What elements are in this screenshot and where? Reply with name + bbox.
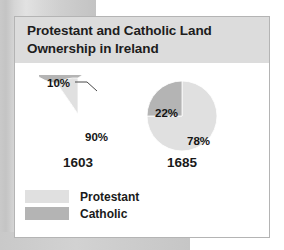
legend-swatch-catholic xyxy=(25,207,69,220)
chart-legend: Protestant Catholic xyxy=(25,189,139,223)
pie-1685-protestant-value-label: 78% xyxy=(187,135,210,147)
legend-item-catholic: Catholic xyxy=(25,206,139,221)
legend-label-catholic: Catholic xyxy=(80,207,127,221)
pie-1685-year-label: 1685 xyxy=(145,155,219,170)
figure-card: Protestant and Catholic Land Ownership i… xyxy=(14,16,270,238)
figure-title-line-2: Ownership in Ireland xyxy=(27,40,269,58)
legend-swatch-protestant xyxy=(25,190,69,203)
pie-1603-year-label: 1603 xyxy=(39,155,117,170)
chart-plot-area: 1603 10% 90% 1685 22% 78% Protestant xyxy=(15,63,269,239)
figure-title-line-1: Protestant and Catholic Land xyxy=(27,22,269,40)
legend-label-protestant: Protestant xyxy=(80,190,139,204)
pie-1603-protestant-value-label: 10% xyxy=(47,77,70,89)
figure-title-banner: Protestant and Catholic Land Ownership i… xyxy=(15,17,269,63)
legend-item-protestant: Protestant xyxy=(25,189,139,204)
pie-1603-catholic-value-label: 90% xyxy=(85,131,108,143)
pie-1603-leader-line xyxy=(75,80,99,94)
pie-chart-1685: 1685 22% 78% xyxy=(145,79,219,170)
pie-1685-catholic-value-label: 22% xyxy=(155,107,178,119)
pie-chart-1603: 1603 10% 90% xyxy=(39,75,117,170)
